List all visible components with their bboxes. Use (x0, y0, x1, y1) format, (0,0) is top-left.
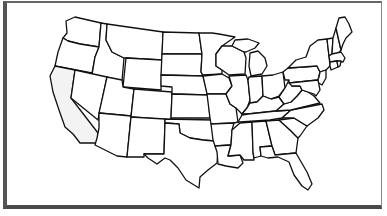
state-north-dakota[interactable] (162, 32, 202, 54)
state-rhode-island[interactable] (337, 61, 341, 67)
state-kansas[interactable] (171, 94, 210, 118)
us-states-map (0, 0, 387, 216)
state-wyoming[interactable] (123, 58, 162, 90)
state-new-york[interactable] (288, 39, 330, 72)
state-arizona[interactable] (95, 113, 131, 157)
state-south-dakota[interactable] (161, 54, 203, 76)
state-new-mexico[interactable] (127, 117, 165, 157)
state-colorado[interactable] (131, 89, 172, 120)
